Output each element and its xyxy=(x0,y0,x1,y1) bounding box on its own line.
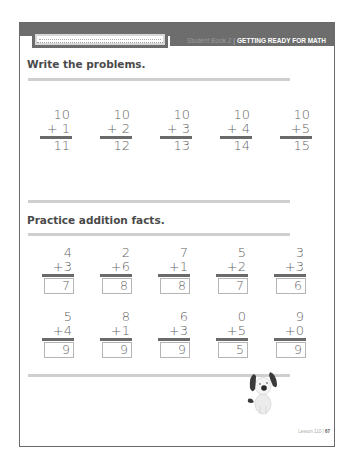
answer-box[interactable]: 9 xyxy=(44,342,74,358)
section-title-practice: Practice addition facts. xyxy=(27,214,165,226)
fact-10: 9 +0 9 xyxy=(272,310,308,358)
footer-separator: | xyxy=(323,429,324,434)
sum-bar xyxy=(274,274,306,277)
fact-2: 2 +6 8 xyxy=(98,246,134,294)
section-rule xyxy=(28,200,290,203)
answer-box[interactable]: 7 xyxy=(218,278,248,294)
answer-box[interactable]: 7 xyxy=(44,278,74,294)
lesson-label: Lesson 110 xyxy=(298,429,321,434)
answer-box[interactable]: 8 xyxy=(160,278,190,294)
fact-3: 7 +1 8 xyxy=(156,246,192,294)
fact-7: 8 +1 9 xyxy=(98,310,134,358)
sum-bar xyxy=(216,274,248,277)
sum-bar xyxy=(100,274,132,277)
sum-bar xyxy=(274,338,306,341)
sum-bar xyxy=(216,338,248,341)
name-box xyxy=(32,32,168,48)
fact-8: 6 +3 9 xyxy=(156,310,192,358)
answer-box[interactable]: 9 xyxy=(160,342,190,358)
dog-icon xyxy=(242,366,282,416)
section-title-write: Write the problems. xyxy=(27,58,146,70)
sum-bar xyxy=(158,338,190,341)
sum-bar xyxy=(42,338,74,341)
section-rule xyxy=(28,78,290,81)
fact-6: 5 +4 9 xyxy=(40,310,76,358)
problem-1: 10 + 1 11 xyxy=(38,108,74,153)
answer: 15 xyxy=(278,139,314,153)
page-number: 67 xyxy=(325,429,330,434)
section-rule xyxy=(28,233,290,236)
problem-5: 10 +5 15 xyxy=(278,108,314,153)
answer: 11 xyxy=(38,139,74,153)
header-separator: | xyxy=(233,37,235,44)
fact-9: 0 +5 5 xyxy=(214,310,250,358)
answer: 14 xyxy=(218,139,254,153)
answer-box[interactable]: 6 xyxy=(276,278,306,294)
page-footer: Lesson 110 | 67 xyxy=(298,429,330,434)
problem-3: 10 + 3 13 xyxy=(158,108,194,153)
book-label: Student Book 2 xyxy=(187,37,231,44)
fact-1: 4 +3 7 xyxy=(40,246,76,294)
subject-label: GETTING READY FOR MATH xyxy=(237,37,326,44)
name-field[interactable] xyxy=(37,36,163,43)
answer-box[interactable]: 9 xyxy=(102,342,132,358)
answer-box[interactable]: 8 xyxy=(102,278,132,294)
sum-bar xyxy=(42,274,74,277)
answer: 12 xyxy=(98,139,134,153)
fact-5: 3 +3 6 xyxy=(272,246,308,294)
answer-box[interactable]: 9 xyxy=(276,342,306,358)
sum-bar xyxy=(100,338,132,341)
problem-2: 10 + 2 12 xyxy=(98,108,134,153)
header-title: Student Book 2|GETTING READY FOR MATH xyxy=(187,36,326,46)
answer-box[interactable]: 5 xyxy=(218,342,248,358)
problem-4: 10 + 4 14 xyxy=(218,108,254,153)
sum-bar xyxy=(158,274,190,277)
fact-4: 5 +2 7 xyxy=(214,246,250,294)
answer: 13 xyxy=(158,139,194,153)
